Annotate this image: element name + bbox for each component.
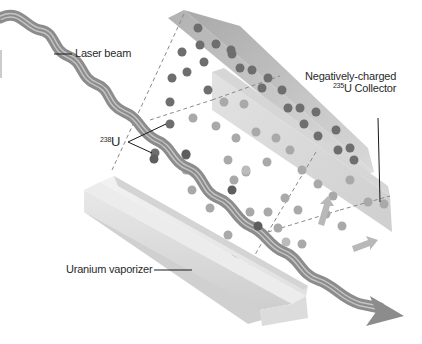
u238-label: 238U (100, 134, 120, 149)
laser-beam-text: Laser beam (75, 47, 131, 59)
vaporizer-label: Uranium vaporizer (66, 263, 152, 275)
u238-mass-number: 238 (100, 136, 111, 143)
collector-label-line2: U Collector (344, 82, 396, 94)
collector-label: Negatively-charged 235U Collector (305, 70, 396, 94)
laser-beam-label: Laser beam (75, 47, 131, 59)
vaporizer-text: Uranium vaporizer (66, 263, 152, 275)
collector-label-line1: Negatively-charged (305, 70, 396, 82)
collector-label-line2-wrap: 235U Collector (305, 82, 396, 94)
isotope-separation-diagram (0, 0, 422, 344)
u238-symbol: U (111, 134, 120, 149)
u235-mass-number: 235 (333, 82, 344, 89)
